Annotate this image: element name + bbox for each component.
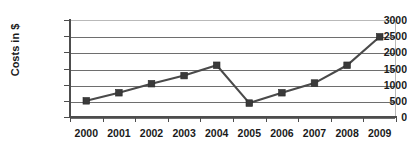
data-series-layer [0, 0, 407, 152]
data-point-marker [181, 72, 188, 79]
data-point-marker [148, 80, 155, 87]
data-point-marker [246, 100, 253, 107]
data-point-marker [116, 89, 123, 96]
data-point-marker [83, 98, 90, 105]
data-point-marker [279, 89, 286, 96]
data-point-marker [311, 80, 318, 87]
data-point-marker [213, 62, 220, 69]
series-line-costs [86, 37, 379, 103]
line-chart: Costs in $ 050010001500200025003000 2000… [0, 0, 407, 152]
data-point-marker [344, 62, 351, 69]
data-point-marker [376, 34, 383, 41]
